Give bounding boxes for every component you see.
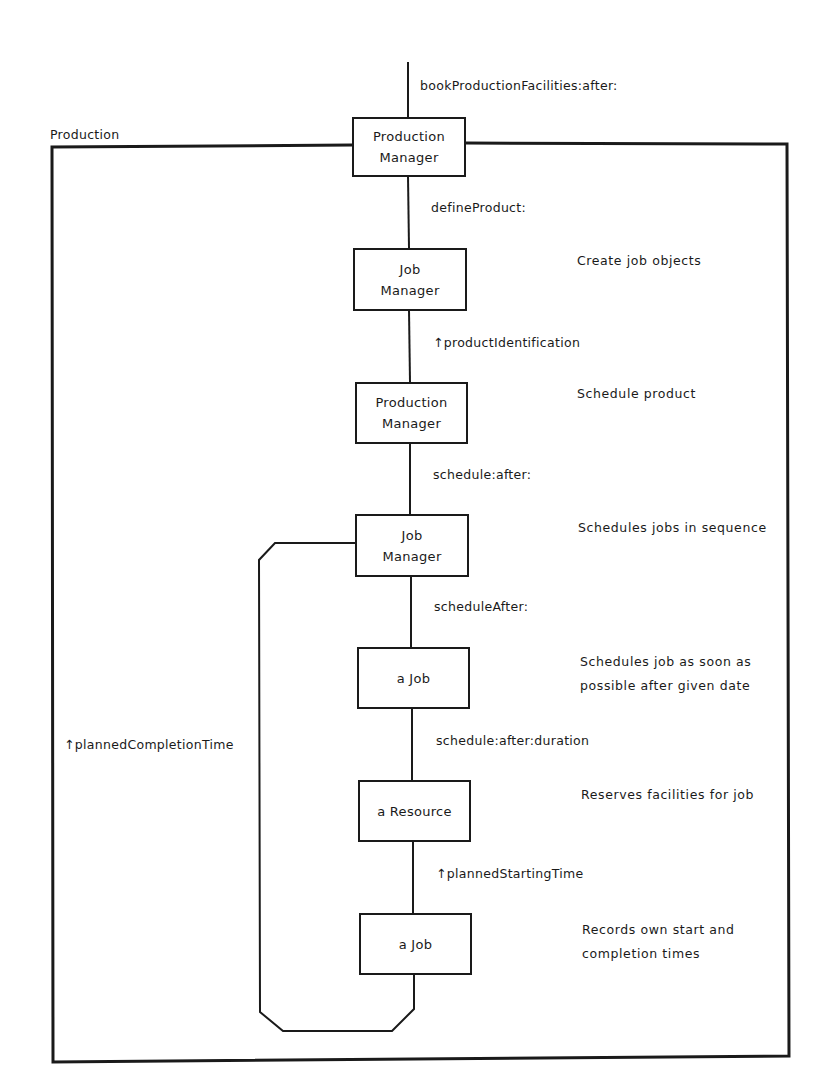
- node-label-line1: Job: [402, 525, 423, 546]
- description-line1: Schedules jobs in sequence: [578, 516, 767, 540]
- node-production-manager-2[interactable]: Production Manager: [355, 382, 468, 444]
- connector-1: [408, 176, 409, 248]
- node-a-job-1[interactable]: a Job: [357, 647, 470, 709]
- description-line1: Create job objects: [577, 249, 701, 273]
- message-label-planned-starting-time: ↑plannedStartingTime: [436, 866, 583, 881]
- description-line1: Reserves facilities for job: [581, 783, 754, 807]
- node-label-line2: Manager: [379, 147, 438, 168]
- description-schedules-job-asap: Schedules job as soon as possible after …: [580, 650, 751, 698]
- node-production-manager-1[interactable]: Production Manager: [352, 117, 466, 177]
- node-job-manager-2[interactable]: Job Manager: [355, 514, 469, 577]
- node-label-line2: Manager: [382, 546, 441, 567]
- description-line1: Records own start and: [582, 918, 735, 942]
- node-label-line1: Production: [375, 392, 447, 413]
- description-reserves-facilities: Reserves facilities for job: [581, 783, 754, 807]
- node-job-manager-1[interactable]: Job Manager: [353, 248, 467, 311]
- node-a-job-2[interactable]: a Job: [359, 913, 472, 975]
- description-create-job-objects: Create job objects: [577, 249, 701, 273]
- node-label-line1: a Job: [397, 668, 431, 689]
- frame-title: Production: [50, 127, 120, 142]
- node-label-line2: Manager: [380, 280, 439, 301]
- node-label-line1: Production: [373, 126, 445, 147]
- message-label-define-product: defineProduct:: [431, 200, 526, 215]
- description-schedule-product: Schedule product: [577, 382, 696, 406]
- production-collaboration-diagram: Production bookProductionFacilities:afte…: [0, 0, 823, 1088]
- node-label-line1: Job: [400, 259, 421, 280]
- node-a-resource[interactable]: a Resource: [358, 780, 471, 842]
- node-label-line2: Manager: [382, 413, 441, 434]
- entry-message-label: bookProductionFacilities:after:: [420, 78, 618, 93]
- message-label-schedule-after-2: scheduleAfter:: [434, 599, 528, 614]
- node-label-line1: a Job: [399, 934, 433, 955]
- description-line1: Schedule product: [577, 382, 696, 406]
- description-line2: completion times: [582, 942, 735, 966]
- message-label-product-identification: ↑productIdentification: [433, 335, 580, 350]
- description-records-times: Records own start and completion times: [582, 918, 735, 966]
- message-label-schedule-after-duration: schedule:after:duration: [436, 733, 589, 748]
- description-schedules-jobs-in-sequence: Schedules jobs in sequence: [578, 516, 767, 540]
- description-line1: Schedules job as soon as: [580, 650, 751, 674]
- connector-2: [409, 310, 410, 382]
- description-line2: possible after given date: [580, 674, 751, 698]
- node-label-line1: a Resource: [377, 801, 452, 822]
- message-label-schedule-after: schedule:after:: [433, 467, 531, 482]
- message-label-planned-completion-time: ↑plannedCompletionTime: [64, 737, 234, 752]
